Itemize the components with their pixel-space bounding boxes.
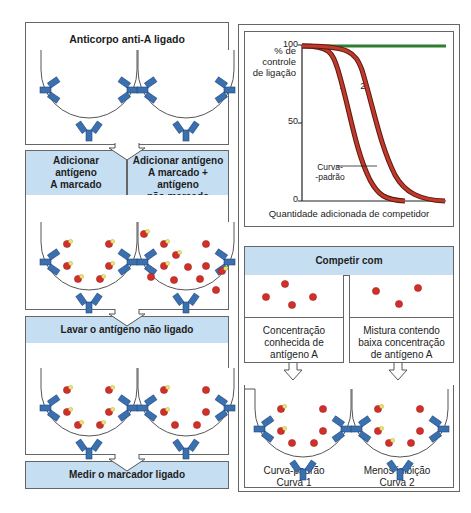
competitor-dots-right: [372, 284, 421, 307]
curve-2: [302, 46, 445, 201]
well-result-left: [254, 389, 352, 480]
well-step3-right: [137, 368, 235, 459]
competitor-dots-left: [262, 280, 316, 308]
well-step3-left: [40, 368, 138, 459]
well-step1-right: [137, 50, 235, 141]
well-step2-left: [40, 222, 138, 313]
chart: [298, 45, 446, 201]
well-step2-right: [137, 222, 235, 313]
arrow-down-icon: [284, 363, 407, 380]
well-step1-left: [40, 50, 138, 141]
well-result-right: [351, 389, 449, 480]
diagram-graphics: [0, 0, 471, 513]
curve-1: [302, 46, 405, 201]
